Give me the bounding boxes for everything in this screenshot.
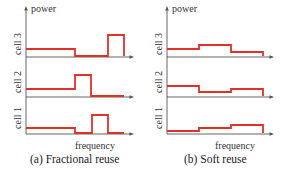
cell2-power-profile <box>26 75 124 96</box>
cell1-label: cell 1 <box>153 107 164 129</box>
caption-a: (a) Fractional reuse <box>30 153 119 166</box>
cell1-power-profile <box>167 125 263 133</box>
y-axis-arrow-icon <box>24 6 28 11</box>
panel-soft-reuse: power cell 3 cell 2 cell 1 frequency (b)… <box>153 3 274 166</box>
cell1-label: cell 1 <box>12 107 23 129</box>
caption-b: (b) Soft reuse <box>184 153 247 166</box>
x-axis-arrow-icon <box>130 95 135 98</box>
x-axis-label: frequency <box>75 140 115 151</box>
cell2-label: cell 2 <box>153 71 164 93</box>
y-axis-arrow-icon <box>165 6 169 11</box>
x-axis-arrow-icon <box>130 132 135 135</box>
cell2-label: cell 2 <box>12 71 23 93</box>
panel-fractional-reuse: power cell 3 cell 2 cell 1 frequency (a)… <box>12 3 134 166</box>
cell3-power-profile <box>167 45 263 56</box>
y-axis-label: power <box>31 3 57 14</box>
cell3-label: cell 3 <box>12 33 23 55</box>
cell3-label: cell 3 <box>153 33 164 55</box>
x-axis-arrow-icon <box>270 132 275 135</box>
reuse-diagram: power cell 3 cell 2 cell 1 frequency (a)… <box>0 0 286 177</box>
x-axis-arrow-icon <box>270 55 275 58</box>
y-axis-label: power <box>172 3 198 14</box>
x-axis-arrow-icon <box>270 95 275 98</box>
cell2-power-profile <box>167 86 263 96</box>
cell1-power-profile <box>26 115 124 133</box>
x-axis-label: frequency <box>215 140 255 151</box>
cell3-power-profile <box>26 35 124 56</box>
x-axis-arrow-icon <box>130 55 135 58</box>
